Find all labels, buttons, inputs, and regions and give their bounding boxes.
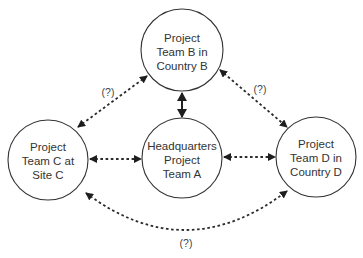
node-headquarters-team-a: Headquarters Project Team A — [142, 118, 222, 198]
node-label-line: Team A — [163, 168, 202, 180]
node-label-line: Team D in — [290, 152, 342, 164]
node-team-b: Project Team B in Country B — [141, 9, 223, 91]
node-label-line: Project — [164, 32, 201, 44]
edge-label-c-d: (?) — [180, 237, 193, 249]
node-team-c: Project Team C at Site C — [8, 120, 88, 200]
edge-label-b-d: (?) — [254, 83, 267, 95]
node-label-line: Project — [298, 138, 335, 150]
node-label-line: Team C at — [22, 155, 75, 167]
node-label-line: Project — [164, 154, 201, 166]
edge-c-d: (?) — [86, 191, 287, 249]
dotted-double-arrow-icon — [220, 70, 287, 127]
node-team-d: Project Team D in Country D — [276, 117, 356, 197]
node-label-line: Country B — [156, 60, 207, 72]
edge-label-c-b: (?) — [102, 86, 115, 98]
edge-b-d: (?) — [220, 70, 287, 127]
node-label-line: Headquarters — [147, 140, 217, 152]
dotted-double-arrow-icon — [78, 76, 147, 127]
edge-c-b: (?) — [78, 76, 147, 127]
node-label-line: Project — [30, 141, 67, 153]
team-communication-diagram: (?) (?) (?) Project Team B in Country B … — [0, 0, 363, 258]
node-label-line: Site C — [32, 169, 63, 181]
node-label-line: Team B in — [156, 46, 207, 58]
node-label-line: Country D — [290, 166, 342, 178]
